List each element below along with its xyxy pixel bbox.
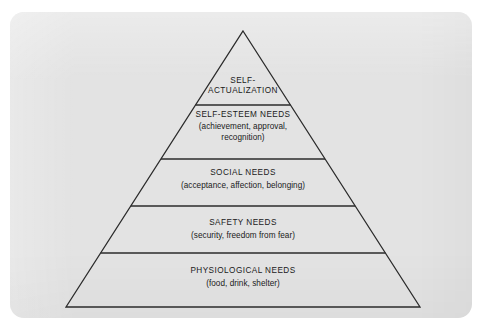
tier-subtitle-line-1: (acceptance, affection, belonging) (123, 181, 363, 191)
tier-label-self-actualization: SELF- ACTUALIZATION (163, 76, 323, 96)
tier-title-line-2: ACTUALIZATION (163, 86, 323, 96)
tier-title-line-1: SELF-ESTEEM NEEDS (143, 110, 343, 120)
tier-subtitle-line-1: (food, drink, shelter) (103, 279, 383, 289)
tier-title-line-1: SELF- (163, 76, 323, 86)
tier-title-line-1: PHYSIOLOGICAL NEEDS (103, 266, 383, 276)
tier-label-social: SOCIAL NEEDS (acceptance, affection, bel… (123, 168, 363, 190)
tier-subtitle-line-2: recognition) (143, 133, 343, 143)
tier-label-self-esteem: SELF-ESTEEM NEEDS (achievement, approval… (143, 110, 343, 143)
tier-subtitle-line-1: (security, freedom from fear) (113, 231, 373, 241)
tier-title-line-1: SOCIAL NEEDS (123, 168, 363, 178)
tier-label-physiological: PHYSIOLOGICAL NEEDS (food, drink, shelte… (103, 266, 383, 288)
tier-title-line-1: SAFETY NEEDS (113, 218, 373, 228)
figure-root: SELF- ACTUALIZATION SELF-ESTEEM NEEDS (a… (0, 0, 488, 334)
tier-subtitle-line-1: (achievement, approval, (143, 122, 343, 132)
tier-label-safety: SAFETY NEEDS (security, freedom from fea… (113, 218, 373, 240)
